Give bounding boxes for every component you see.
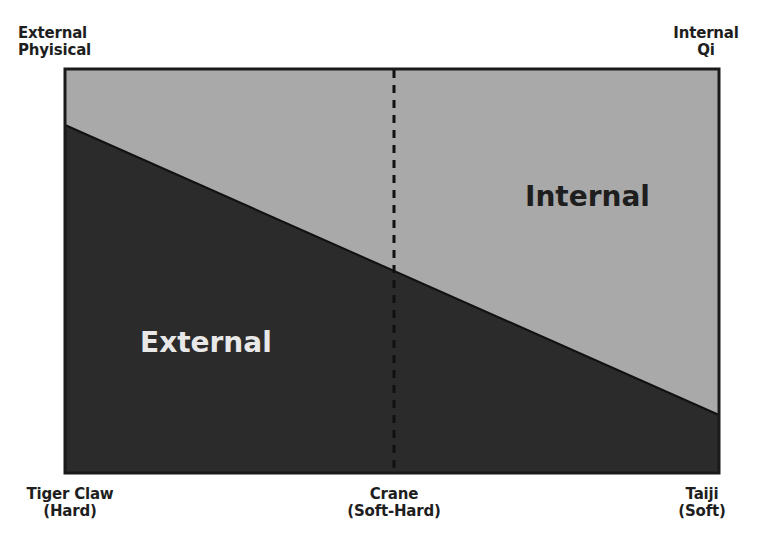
top-left-line2: Phyisical	[18, 42, 91, 59]
top-right-label: Internal Qi	[661, 25, 751, 59]
axis-label-line1: Tiger Claw	[20, 486, 120, 503]
axis-label-line2: (Soft-Hard)	[334, 503, 454, 520]
top-left-line1: External	[18, 25, 91, 42]
axis-label-crane: Crane (Soft-Hard)	[334, 486, 454, 520]
axis-label-tiger-claw: Tiger Claw (Hard)	[20, 486, 120, 520]
top-right-line1: Internal	[661, 25, 751, 42]
top-right-line2: Qi	[661, 42, 751, 59]
top-left-label: External Phyisical	[18, 25, 91, 59]
external-region-label: External	[140, 326, 272, 359]
axis-label-taiji: Taiji (Soft)	[662, 486, 742, 520]
internal-region-label: Internal	[525, 180, 650, 213]
axis-label-line2: (Soft)	[662, 503, 742, 520]
diagram-canvas: Internal External	[0, 0, 769, 548]
axis-label-line1: Taiji	[662, 486, 742, 503]
axis-label-line1: Crane	[334, 486, 454, 503]
axis-label-line2: (Hard)	[20, 503, 120, 520]
